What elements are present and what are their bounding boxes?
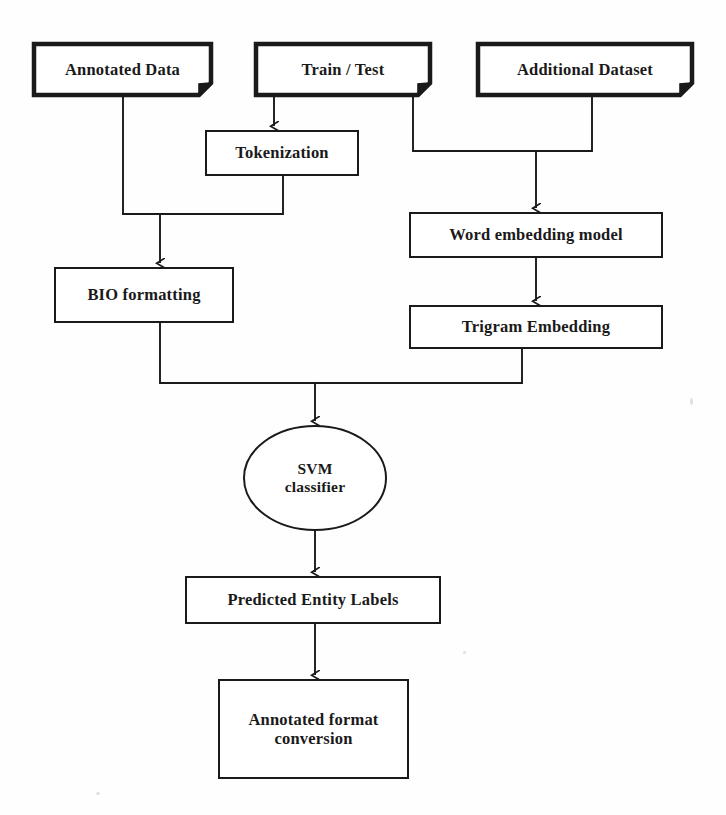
node-train-test-shape — [256, 44, 430, 95]
node-svm-classifier-shape — [244, 426, 386, 530]
node-word-embedding-model-shape — [410, 213, 662, 257]
edge-annotated-data-to-merge-left — [123, 95, 160, 214]
scan-speck — [96, 792, 100, 795]
edge-train-test-to-merge-right — [413, 95, 536, 151]
node-trigram-embedding-shape — [410, 306, 662, 348]
edge-additional-dataset-to-merge-right — [536, 95, 592, 151]
edge-trigram-to-merge-bottom — [315, 348, 522, 383]
node-additional-dataset-fold — [680, 83, 692, 95]
node-train-test-fold — [418, 83, 430, 95]
node-annotated-data-shape — [34, 44, 211, 95]
node-annotated-format-conversion-shape — [219, 680, 408, 778]
node-annotated-data-fold — [199, 83, 211, 95]
scan-speck — [463, 651, 466, 654]
edge-tokenization-to-merge-left — [160, 175, 283, 214]
scan-speck — [690, 398, 693, 405]
node-tokenization-shape — [206, 131, 358, 175]
edge-bio-formatting-to-merge-bottom — [160, 322, 315, 383]
node-bio-formatting-shape — [55, 268, 233, 322]
node-additional-dataset-shape — [478, 44, 692, 95]
flowchart-connectors — [0, 0, 726, 815]
node-predicted-entity-labels-shape — [186, 577, 440, 623]
flowchart-canvas: Annotated Data Train / Test Additional D… — [0, 0, 726, 815]
